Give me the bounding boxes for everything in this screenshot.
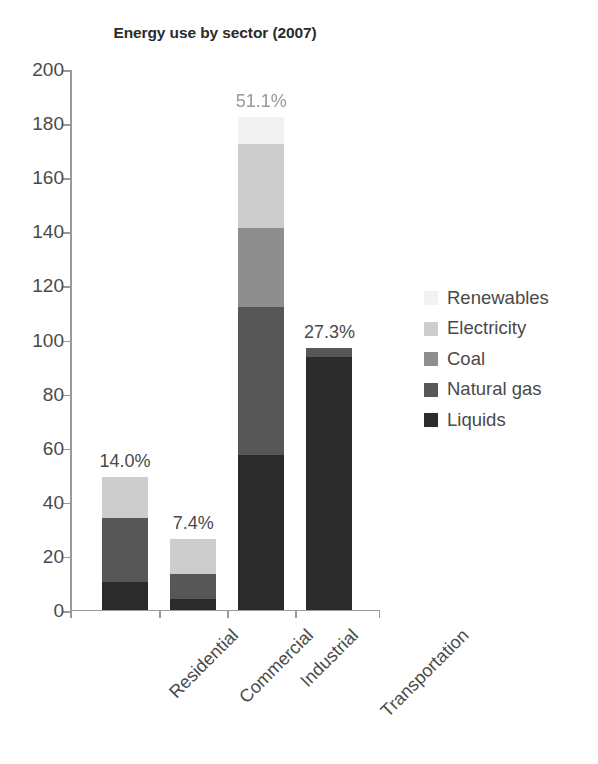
bar-segment-natural-gas[interactable] xyxy=(170,574,216,598)
bar-industrial[interactable]: 51.1% xyxy=(238,117,284,609)
legend-item-natural-gas[interactable]: Natural gas xyxy=(424,379,549,401)
energy-use-stacked-bar-chart: Energy use by sector (2007) 020406080100… xyxy=(0,0,598,764)
y-tick-mark xyxy=(63,70,70,72)
bar-segment-liquids[interactable] xyxy=(238,455,284,609)
y-tick-mark xyxy=(63,611,70,613)
y-tick-mark xyxy=(63,395,70,397)
y-tick-mark xyxy=(63,124,70,126)
legend-swatch-icon xyxy=(424,322,438,336)
y-tick-label: 60 xyxy=(43,438,64,460)
bar-segment-natural-gas[interactable] xyxy=(238,307,284,456)
y-tick-mark xyxy=(63,286,70,288)
y-tick-label: 160 xyxy=(32,167,64,189)
bar-value-label: 7.4% xyxy=(173,513,214,534)
bar-residential[interactable]: 14.0% xyxy=(102,477,148,610)
x-category-label-residential: Residential xyxy=(165,625,243,703)
bar-segment-natural-gas[interactable] xyxy=(306,348,352,357)
y-tick-label: 0 xyxy=(53,600,64,622)
y-tick-mark xyxy=(63,503,70,505)
x-tick-mark xyxy=(70,611,72,618)
legend-label: Coal xyxy=(447,350,485,369)
bar-segment-renewables[interactable] xyxy=(238,117,284,144)
legend-label: Electricity xyxy=(447,319,526,338)
legend-label: Liquids xyxy=(447,411,506,430)
y-tick-mark xyxy=(63,178,70,180)
x-category-label-transportation: Transportation xyxy=(377,625,473,721)
bar-segment-liquids[interactable] xyxy=(102,582,148,609)
y-tick-label: 180 xyxy=(32,113,64,135)
y-tick-label: 40 xyxy=(43,492,64,514)
x-tick-mark xyxy=(159,611,161,618)
x-tick-mark xyxy=(379,611,381,618)
y-tick-label: 80 xyxy=(43,384,64,406)
y-tick-label: 20 xyxy=(43,546,64,568)
y-tick-mark xyxy=(63,341,70,343)
legend-item-electricity[interactable]: Electricity xyxy=(424,318,549,340)
y-tick-label: 140 xyxy=(32,221,64,243)
plot-area: 020406080100120140160180200 14.0%7.4%51.… xyxy=(70,70,380,611)
legend: RenewablesElectricityCoalNatural gasLiqu… xyxy=(424,287,549,431)
y-tick-label: 200 xyxy=(32,59,64,81)
legend-swatch-icon xyxy=(424,383,438,397)
bar-segment-liquids[interactable] xyxy=(306,357,352,609)
legend-item-liquids[interactable]: Liquids xyxy=(424,409,549,431)
legend-label: Renewables xyxy=(447,289,549,308)
x-tick-mark xyxy=(227,611,229,618)
y-tick-label: 100 xyxy=(32,330,64,352)
bar-value-label: 51.1% xyxy=(236,91,287,112)
bar-segment-electricity[interactable] xyxy=(102,477,148,518)
legend-swatch-icon xyxy=(424,352,438,366)
bar-segment-coal[interactable] xyxy=(238,228,284,306)
y-tick-label: 120 xyxy=(32,275,64,297)
y-axis-line xyxy=(70,70,72,611)
x-axis-line xyxy=(70,610,380,612)
chart-title: Energy use by sector (2007) xyxy=(0,24,430,42)
bar-segment-electricity[interactable] xyxy=(170,539,216,574)
bar-value-label: 27.3% xyxy=(304,322,355,343)
y-tick-mark xyxy=(63,557,70,559)
bar-commercial[interactable]: 7.4% xyxy=(170,539,216,609)
y-tick-mark xyxy=(63,232,70,234)
legend-item-coal[interactable]: Coal xyxy=(424,348,549,370)
bar-segment-natural-gas[interactable] xyxy=(102,518,148,583)
legend-swatch-icon xyxy=(424,291,438,305)
bar-value-label: 14.0% xyxy=(100,451,151,472)
legend-item-renewables[interactable]: Renewables xyxy=(424,287,549,309)
bar-transportation[interactable]: 27.3% xyxy=(306,348,352,609)
x-tick-mark xyxy=(295,611,297,618)
bar-segment-electricity[interactable] xyxy=(238,144,284,228)
legend-swatch-icon xyxy=(424,413,438,427)
y-tick-mark xyxy=(63,449,70,451)
bar-segment-liquids[interactable] xyxy=(170,599,216,610)
legend-label: Natural gas xyxy=(447,380,542,399)
